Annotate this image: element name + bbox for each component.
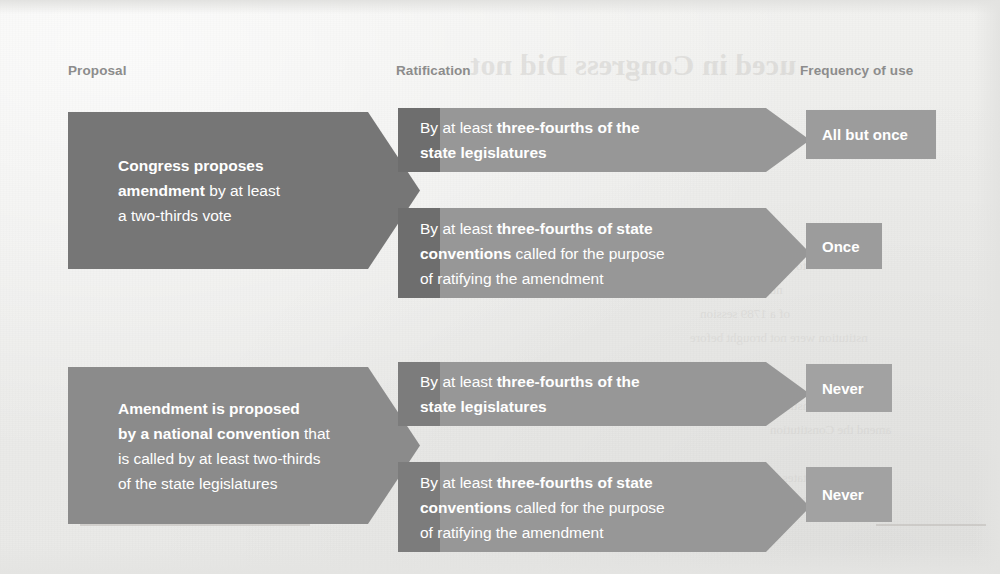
proposal-box-congress: Congress proposesamendment by at leasta … — [68, 112, 420, 269]
ratification-arrow-state-legislatures: By at least three-fourths of thestate le… — [398, 362, 810, 426]
ratification-text: By at least three-fourths of thestate le… — [398, 369, 710, 419]
column-header-ratification: Ratification — [396, 63, 471, 78]
proposal-text: Congress proposesamendment by at leasta … — [68, 153, 300, 228]
amendment-process-diagram: Proposal Ratification Frequency of use C… — [0, 0, 1000, 574]
column-header-proposal: Proposal — [68, 63, 127, 78]
ratification-arrow-state-conventions: By at least three-fourths of stateconven… — [398, 462, 810, 552]
ratification-text: By at least three-fourths of thestate le… — [398, 115, 710, 165]
proposal-text: Amendment is proposedby a national conve… — [68, 396, 350, 496]
frequency-badge-once: Once — [806, 223, 882, 269]
column-header-frequency-of-use: Frequency of use — [800, 63, 913, 78]
frequency-badge-never: Never — [806, 467, 892, 522]
ratification-text: By at least three-fourths of stateconven… — [398, 470, 735, 545]
frequency-badge-all-but-once: All but once — [806, 110, 936, 159]
ratification-arrow-state-legislatures: By at least three-fourths of thestate le… — [398, 108, 810, 172]
frequency-badge-never: Never — [806, 364, 892, 412]
ratification-arrow-state-conventions: By at least three-fourths of stateconven… — [398, 208, 810, 298]
proposal-box-national-convention: Amendment is proposedby a national conve… — [68, 367, 420, 524]
ratification-text: By at least three-fourths of stateconven… — [398, 216, 735, 291]
